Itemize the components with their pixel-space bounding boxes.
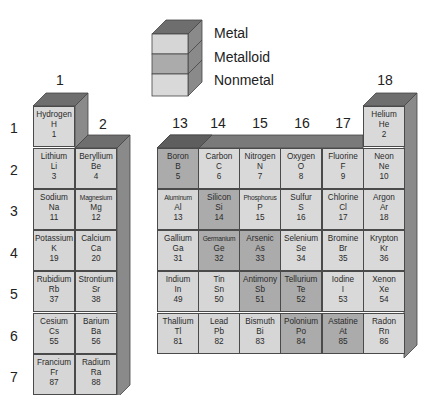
element-cell-polonium: Polonium Po 84 <box>280 313 322 354</box>
element-name: Tin <box>199 275 239 285</box>
element-symbol: Sn <box>199 285 239 295</box>
element-symbol: O <box>281 162 321 172</box>
element-symbol: Ne <box>364 162 404 172</box>
element-symbol: C <box>199 162 239 172</box>
element-cell-aluminum: Aluminum Al 13 <box>157 189 199 230</box>
element-name: Polonium <box>281 317 321 327</box>
element-number: 86 <box>364 337 404 347</box>
element-number: 55 <box>34 337 74 347</box>
element-name: Iodine <box>323 275 363 285</box>
element-name: Francium <box>34 358 74 368</box>
element-symbol: Tl <box>158 327 198 337</box>
element-cell-hydrogen: Hydrogen H 1 <box>33 106 75 147</box>
element-number: 32 <box>199 254 239 264</box>
element-number: 81 <box>158 337 198 347</box>
element-symbol: Bi <box>240 327 280 337</box>
element-symbol: Fr <box>34 368 74 378</box>
element-cell-lead: Lead Pb 82 <box>198 313 240 354</box>
element-symbol: Li <box>34 162 74 172</box>
element-number: 12 <box>76 213 116 223</box>
element-symbol: N <box>240 162 280 172</box>
element-number: 54 <box>364 295 404 305</box>
element-number: 36 <box>364 254 404 264</box>
element-cell-beryllium: Beryllium Be 4 <box>75 148 117 189</box>
element-number: 16 <box>281 213 321 223</box>
element-number: 14 <box>199 213 239 223</box>
element-name: Beryllium <box>76 152 116 162</box>
element-cell-phosphorus: Phosphorus P 15 <box>239 189 281 230</box>
element-symbol: Te <box>281 285 321 295</box>
element-symbol: Na <box>34 203 74 213</box>
element-name: Potassium <box>34 234 74 244</box>
element-name: Radon <box>364 317 404 327</box>
element-cell-tellurium: Tellurium Te 52 <box>280 271 322 312</box>
element-name: Nitrogen <box>240 152 280 162</box>
element-symbol: Ra <box>76 368 116 378</box>
element-symbol: Be <box>76 162 116 172</box>
element-number: 82 <box>199 337 239 347</box>
element-number: 3 <box>34 172 74 182</box>
element-number: 11 <box>34 213 74 223</box>
element-symbol: F <box>323 162 363 172</box>
element-number: 13 <box>158 213 198 223</box>
element-name: Barium <box>76 317 116 327</box>
element-name: Phosphorus <box>240 193 280 203</box>
element-symbol: Mg <box>76 203 116 213</box>
element-symbol: B <box>158 162 198 172</box>
element-name: Lead <box>199 317 239 327</box>
element-name: Fluorine <box>323 152 363 162</box>
element-number: 50 <box>199 295 239 305</box>
element-cell-arsenic: Arsenic As 33 <box>239 230 281 271</box>
element-number: 31 <box>158 254 198 264</box>
element-number: 37 <box>34 295 74 305</box>
element-symbol: Xe <box>364 285 404 295</box>
element-name: Tellurium <box>281 275 321 285</box>
element-name: Strontium <box>76 275 116 285</box>
element-cell-calcium: Calcium Ca 20 <box>75 230 117 271</box>
element-symbol: I <box>323 285 363 295</box>
element-number: 7 <box>240 172 280 182</box>
element-name: Xenon <box>364 275 404 285</box>
element-name: Silicon <box>199 193 239 203</box>
element-symbol: Al <box>158 203 198 213</box>
element-cell-astatine: Astatine At 85 <box>322 313 364 354</box>
element-symbol: Ca <box>76 244 116 254</box>
element-symbol: Se <box>281 244 321 254</box>
element-name: Rubidium <box>34 275 74 285</box>
element-name: Germanium <box>199 234 239 244</box>
element-number: 15 <box>240 213 280 223</box>
element-name: Neon <box>364 152 404 162</box>
element-number: 34 <box>281 254 321 264</box>
element-cell-iodine: Iodine I 53 <box>322 271 364 312</box>
element-number: 51 <box>240 295 280 305</box>
element-cell-boron: Boron B 5 <box>157 148 199 189</box>
element-name: Astatine <box>323 317 363 327</box>
element-symbol: Si <box>199 203 239 213</box>
element-cell-magnesium: Magnesium Mg 12 <box>75 189 117 230</box>
element-name: Arsenic <box>240 234 280 244</box>
element-symbol: Ga <box>158 244 198 254</box>
element-number: 19 <box>34 254 74 264</box>
element-symbol: Sb <box>240 285 280 295</box>
element-name: Sodium <box>34 193 74 203</box>
element-number: 5 <box>158 172 198 182</box>
element-number: 10 <box>364 172 404 182</box>
element-cell-thallium: Thallium Tl 81 <box>157 313 199 354</box>
element-symbol: Cs <box>34 327 74 337</box>
element-symbol: K <box>34 244 74 254</box>
element-name: Antimony <box>240 275 280 285</box>
element-number: 8 <box>281 172 321 182</box>
element-name: Lithium <box>34 152 74 162</box>
element-number: 35 <box>323 254 363 264</box>
element-name: Selenium <box>281 234 321 244</box>
element-symbol: Po <box>281 327 321 337</box>
element-name: Radium <box>76 358 116 368</box>
element-name: Oxygen <box>281 152 321 162</box>
element-name: Aluminum <box>158 193 198 203</box>
element-cell-francium: Francium Fr 87 <box>33 354 75 395</box>
element-symbol: Ge <box>199 244 239 254</box>
element-cell-selenium: Selenium Se 34 <box>280 230 322 271</box>
element-symbol: He <box>364 120 404 130</box>
element-symbol: Sr <box>76 285 116 295</box>
element-name: Chlorine <box>323 193 363 203</box>
